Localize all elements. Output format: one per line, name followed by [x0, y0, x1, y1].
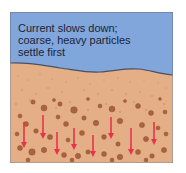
caption-line-2: coarse, heavy particles — [18, 34, 168, 46]
caption-line-1: Current slows down; — [18, 22, 168, 34]
caption-line-3: settle first — [18, 46, 168, 58]
diagram-caption: Current slows down; coarse, heavy partic… — [18, 22, 168, 58]
